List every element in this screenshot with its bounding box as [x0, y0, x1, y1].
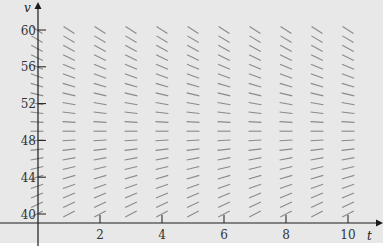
slope-segment: [218, 122, 231, 123]
slope-segment: [125, 140, 138, 141]
t-tick-label: 2: [96, 228, 104, 242]
slope-segment: [280, 140, 293, 141]
v-tick-label: 56: [21, 60, 36, 74]
slope-segment: [311, 122, 324, 123]
v-tick-label: 52: [21, 97, 36, 111]
slope-segment: [94, 122, 107, 123]
slope-segment: [63, 140, 76, 141]
slope-segment: [63, 122, 76, 123]
t-axis-label: t: [367, 229, 372, 243]
t-tick-label: 8: [282, 228, 290, 242]
slope-segment: [311, 140, 324, 141]
slope-segment: [342, 122, 355, 123]
v-axis-label: v: [24, 1, 31, 15]
slope-segment: [156, 122, 169, 123]
v-tick-label: 48: [21, 134, 36, 148]
v-tick-label: 40: [21, 208, 36, 222]
slope-segment: [187, 140, 200, 141]
v-tick-label: 60: [21, 24, 36, 38]
slope-segment: [249, 140, 262, 141]
slope-segment: [187, 122, 200, 123]
slope-segment: [31, 122, 44, 123]
t-tick-label: 10: [340, 228, 355, 242]
t-tick-label: 6: [220, 228, 228, 242]
slope-segment: [249, 122, 262, 123]
t-tick-label: 4: [158, 228, 166, 242]
slope-segment: [218, 140, 231, 141]
slope-segment: [125, 122, 138, 123]
slope-segment: [342, 140, 355, 141]
slope-field-chart: t v 246810 404448525660: [0, 0, 383, 251]
v-tick-label: 44: [21, 171, 37, 185]
slope-segment: [156, 140, 169, 141]
chart-canvas: t v 246810 404448525660: [0, 0, 383, 251]
slope-segment: [280, 122, 293, 123]
slope-segment: [94, 140, 107, 141]
